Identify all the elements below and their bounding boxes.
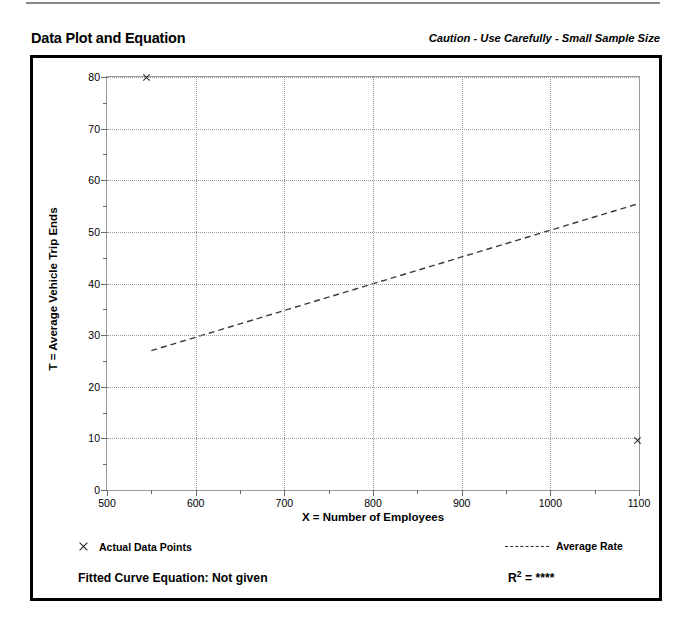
- y-tick-major: [101, 335, 107, 336]
- legend-average-rate-label: Average Rate: [556, 540, 623, 552]
- x-tick-major: [462, 490, 463, 496]
- r-squared-number: = ****: [525, 571, 554, 585]
- x-tick-major: [284, 490, 285, 496]
- y-tick-minor: [103, 361, 107, 362]
- y-tick-label: 10: [88, 432, 100, 444]
- x-tick-label: 700: [276, 497, 294, 509]
- chart-header: Data Plot and Equation Caution - Use Car…: [0, 30, 696, 52]
- x-tick-minor: [595, 490, 596, 494]
- y-tick-major: [101, 129, 107, 130]
- y-tick-major: [101, 387, 107, 388]
- y-tick-label: 30: [88, 329, 100, 341]
- x-tick-minor: [417, 490, 418, 494]
- page-title: Data Plot and Equation: [31, 30, 185, 46]
- y-tick-major: [101, 438, 107, 439]
- data-point-marker: [142, 73, 151, 82]
- y-tick-minor: [103, 103, 107, 104]
- y-axis-title: T = Average Vehicle Trip Ends: [47, 174, 59, 404]
- x-tick-label: 500: [98, 497, 116, 509]
- y-tick-minor: [103, 206, 107, 207]
- x-tick-major: [196, 490, 197, 496]
- x-cross-marker-icon: [78, 541, 89, 552]
- y-tick-minor: [103, 413, 107, 414]
- y-tick-major: [101, 232, 107, 233]
- x-tick-label: 1000: [539, 497, 562, 509]
- y-tick-label: 40: [88, 278, 100, 290]
- y-tick-label: 70: [88, 123, 100, 135]
- x-tick-major: [373, 490, 374, 496]
- y-tick-minor: [103, 258, 107, 259]
- average-rate-trendline: [151, 203, 639, 350]
- y-tick-minor: [103, 309, 107, 310]
- r-squared-symbol: R: [508, 571, 517, 585]
- x-tick-major: [107, 490, 108, 496]
- x-tick-label: 800: [364, 497, 382, 509]
- x-tick-minor: [240, 490, 241, 494]
- data-point-marker: [633, 436, 642, 445]
- r-squared-value: R2 = ****: [508, 569, 554, 585]
- x-tick-major: [639, 490, 640, 496]
- y-tick-label: 60: [88, 174, 100, 186]
- y-tick-major: [101, 77, 107, 78]
- x-tick-minor: [506, 490, 507, 494]
- caution-note: Caution - Use Carefully - Small Sample S…: [429, 32, 660, 44]
- y-tick-major: [101, 284, 107, 285]
- y-tick-label: 50: [88, 226, 100, 238]
- y-tick-major: [101, 180, 107, 181]
- y-tick-minor: [103, 154, 107, 155]
- x-tick-label: 900: [453, 497, 471, 509]
- fitted-curve-equation: Fitted Curve Equation: Not given: [78, 571, 268, 585]
- x-tick-label: 1100: [628, 497, 651, 509]
- dashed-line-marker-icon: [505, 546, 549, 547]
- x-tick-minor: [151, 490, 152, 494]
- y-tick-label: 20: [88, 381, 100, 393]
- y-tick-label: 80: [88, 71, 100, 83]
- average-rate-line: [107, 77, 639, 490]
- plot-area: 0102030405060708050060070080090010001100: [106, 76, 640, 491]
- x-tick-label: 600: [187, 497, 205, 509]
- top-divider-rule: [26, 2, 660, 4]
- x-tick-minor: [329, 490, 330, 494]
- r-squared-exponent: 2: [517, 569, 522, 579]
- y-tick-minor: [103, 464, 107, 465]
- x-axis-title: X = Number of Employees: [106, 511, 640, 523]
- y-tick-label: 0: [94, 484, 100, 496]
- legend-actual-data-points-label: Actual Data Points: [99, 541, 192, 553]
- x-tick-major: [550, 490, 551, 496]
